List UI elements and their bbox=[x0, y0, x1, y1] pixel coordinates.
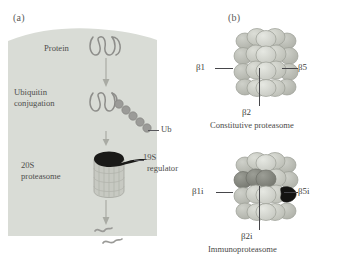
proteasome-26s-glyph bbox=[88, 147, 150, 203]
beta2-leader bbox=[259, 68, 260, 106]
label-ubiquitin-line2: conjugation bbox=[14, 98, 55, 109]
peptide-fragments-glyph bbox=[94, 224, 130, 254]
label-20s-line2: proteasome bbox=[21, 171, 61, 182]
figure-root: (a) Protein Ubiq bbox=[0, 0, 339, 264]
panel-a-letter: (a) bbox=[13, 12, 25, 23]
ubiquitinated-protein-glyph bbox=[88, 92, 158, 140]
label-beta1: β1 bbox=[196, 62, 205, 72]
panel-b: (b) bbox=[170, 0, 339, 264]
caption-constitutive-proteasome: Constitutive proteasome bbox=[210, 120, 294, 130]
label-protein: Protein bbox=[44, 43, 69, 54]
panel-a: (a) Protein Ubiq bbox=[0, 0, 170, 264]
label-beta2: β2 bbox=[242, 107, 251, 117]
beta1i-leader bbox=[216, 192, 233, 193]
beta2i-leader bbox=[259, 186, 260, 230]
label-20s-proteasome: 20S proteasome bbox=[21, 160, 61, 182]
beta5i-leader bbox=[284, 192, 298, 193]
label-beta2i: β2i bbox=[241, 231, 253, 241]
label-ubiquitin-conjugation: Ubiquitin conjugation bbox=[14, 87, 55, 109]
label-ubiquitin-line1: Ubiquitin bbox=[14, 87, 55, 98]
flow-arrow-1 bbox=[100, 58, 112, 92]
label-beta5: β5 bbox=[298, 62, 307, 72]
constitutive-proteasome-barrel bbox=[233, 28, 299, 110]
label-beta5i: β5i bbox=[298, 186, 310, 196]
caption-immunoproteasome: Immunoproteasome bbox=[208, 244, 277, 254]
beta5-leader bbox=[282, 68, 298, 69]
label-beta1i: β1i bbox=[192, 186, 204, 196]
label-20s-line1: 20S bbox=[21, 160, 61, 171]
ub-leader-line bbox=[148, 130, 159, 131]
panel-b-letter: (b) bbox=[228, 12, 240, 23]
immunoproteasome-barrel bbox=[233, 152, 299, 234]
beta1-leader bbox=[215, 68, 233, 69]
